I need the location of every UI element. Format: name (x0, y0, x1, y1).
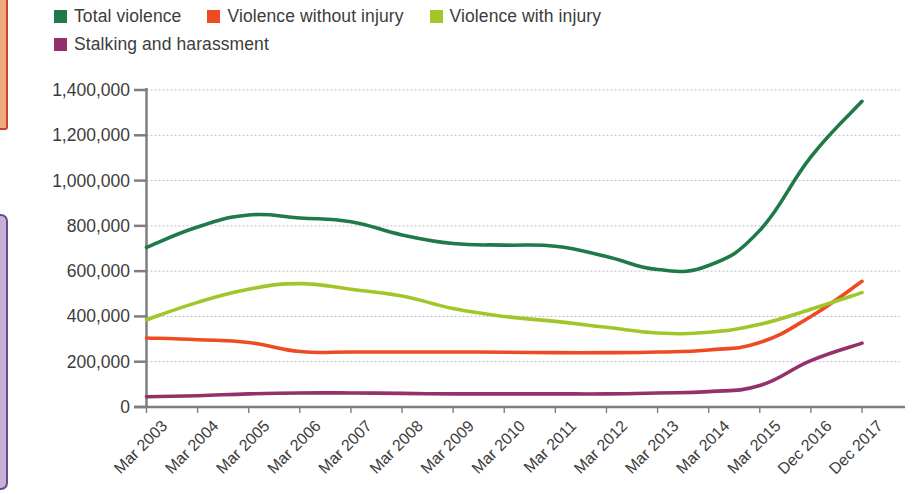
y-axis-tick-label: 800,000 (67, 215, 130, 236)
y-axis-tick-label: 0 (120, 397, 130, 418)
y-axis-tick-label: 1,200,000 (52, 125, 130, 146)
y-axis-tick-label: 1,000,000 (52, 170, 130, 191)
y-axis-tick-label: 600,000 (67, 261, 130, 282)
y-axis-tick-label: 1,400,000 (52, 80, 130, 101)
y-axis-tick-label: 200,000 (67, 351, 130, 372)
series-line-total-violence (147, 101, 863, 271)
y-axis-tick-label: 400,000 (67, 306, 130, 327)
series-line-violence-with-injury (147, 284, 863, 334)
